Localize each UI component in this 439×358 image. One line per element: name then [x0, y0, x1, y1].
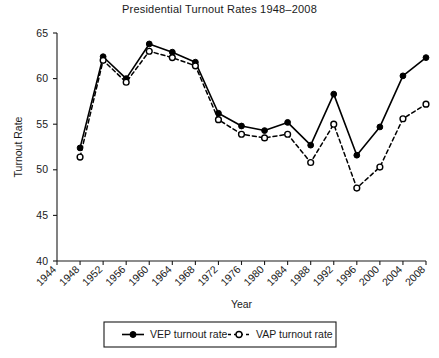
x-tick-label: 1996 [333, 263, 358, 288]
x-tick-label: 2004 [379, 263, 404, 288]
data-point [77, 154, 83, 160]
data-point [216, 117, 222, 123]
x-tick-label: 1968 [172, 263, 197, 288]
data-point [146, 48, 152, 54]
data-point [377, 124, 383, 130]
data-point [331, 121, 337, 127]
x-tick-label: 1960 [126, 263, 151, 288]
y-tick-label: 40 [36, 255, 48, 267]
x-tick-label: 1984 [264, 263, 289, 288]
data-point [423, 101, 429, 107]
data-point [192, 63, 198, 69]
data-point [285, 131, 291, 137]
x-axis-title: Year [231, 298, 253, 310]
data-point [169, 55, 175, 61]
y-tick-label: 55 [36, 118, 48, 130]
y-tick-label: 50 [36, 163, 48, 175]
y-tick-label: 65 [36, 27, 48, 39]
data-point [377, 164, 383, 170]
y-tick-label: 45 [36, 209, 48, 221]
data-point [400, 116, 406, 122]
y-axis-ticks: 404550556065 [36, 27, 57, 267]
legend-marker-icon [236, 332, 242, 338]
x-tick-label: 1956 [103, 263, 128, 288]
chart-title: Presidential Turnout Rates 1948–2008 [0, 3, 439, 15]
x-tick-label: 1976 [218, 263, 243, 288]
x-tick-label: 1992 [310, 263, 335, 288]
x-tick-label: 1972 [195, 263, 220, 288]
y-tick-label: 60 [36, 72, 48, 84]
data-point [354, 152, 360, 158]
data-point [423, 55, 429, 61]
x-tick-label: 1948 [56, 263, 81, 288]
y-axis-title: Turnout Rate [12, 116, 24, 177]
data-point [262, 128, 268, 134]
legend-marker-icon [130, 332, 136, 338]
x-axis-ticks: 1944194819521956196019641968197219761980… [33, 261, 427, 288]
legend-label: VEP turnout rate [150, 328, 228, 340]
chart-container: Presidential Turnout Rates 1948–2008 404… [0, 0, 439, 358]
data-point [100, 57, 106, 63]
x-tick-label: 1944 [33, 263, 58, 288]
data-point [123, 79, 129, 85]
x-tick-label: 2000 [356, 263, 381, 288]
data-point [308, 142, 314, 148]
data-point [146, 41, 152, 47]
data-point [239, 123, 245, 129]
data-point [262, 135, 268, 141]
legend-label: VAP turnout rate [256, 328, 333, 340]
chart-legend: VEP turnout rateVAP turnout rate [104, 322, 336, 347]
x-tick-label: 1980 [241, 263, 266, 288]
data-point [308, 160, 314, 166]
x-tick-label: 1988 [287, 263, 312, 288]
data-point [400, 73, 406, 79]
data-point [354, 185, 360, 191]
x-tick-label: 1952 [80, 263, 105, 288]
series-line-vep [80, 44, 426, 155]
series-layer [77, 41, 429, 191]
x-tick-label: 2008 [402, 263, 427, 288]
data-point [285, 119, 291, 125]
x-tick-label: 1964 [149, 263, 174, 288]
series-line-vap [80, 51, 426, 188]
data-point [331, 91, 337, 97]
chart-svg: 404550556065 194419481952195619601964196… [0, 0, 439, 358]
data-point [239, 131, 245, 137]
